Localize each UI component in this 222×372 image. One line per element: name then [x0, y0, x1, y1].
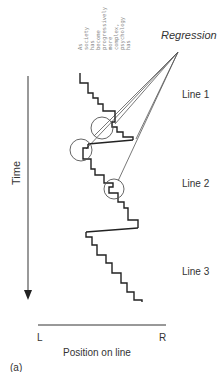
rotated-text-column: As society has become progressively more… [77, 6, 131, 50]
regression-jump-1 [88, 140, 133, 144]
line-label-2: Line 2 [182, 178, 210, 189]
staircase-line-3 [86, 232, 142, 302]
pointer-line-5 [118, 52, 178, 181]
pointer-line-3 [86, 52, 178, 149]
position-axis-label: Position on line [63, 347, 131, 358]
regression-label: Regression [161, 29, 217, 41]
pointer-line-1 [94, 52, 178, 136]
regression-pointers [86, 52, 178, 181]
position-axis-right-label: R [159, 332, 166, 343]
panel-label: (a) [10, 362, 22, 372]
regression-circles [70, 117, 124, 199]
time-axis [24, 76, 32, 300]
time-axis-label: Time [10, 161, 22, 185]
position-axis-left-label: L [37, 332, 43, 343]
regression-jump-2 [86, 228, 138, 232]
regression-circle-2 [70, 139, 92, 161]
arrow-down-icon [24, 290, 32, 300]
regression-circle-3 [104, 179, 124, 199]
pointer-line-2 [115, 52, 178, 124]
line-label-3: Line 3 [182, 266, 210, 277]
staircase-line-1 [80, 73, 133, 140]
regression-diagram: As society has become progressively more… [0, 0, 222, 372]
line-label-1: Line 1 [182, 89, 210, 100]
rotated-word: has [125, 40, 131, 50]
